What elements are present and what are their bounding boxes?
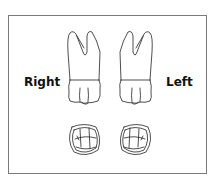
right-tooth-occlusal-icon (69, 125, 99, 155)
teeth-illustration (0, 0, 220, 182)
left-tooth-occlusal-icon (120, 125, 150, 155)
left-tooth-lateral-icon (120, 32, 153, 105)
right-tooth-lateral-icon (68, 32, 101, 105)
